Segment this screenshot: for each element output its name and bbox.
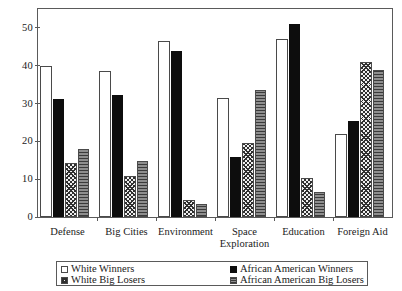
x-axis-label-line: Exploration — [215, 238, 274, 250]
x-axis-label: Environment — [156, 226, 215, 238]
chart-legend: White WinnersWhite Big Losers African Am… — [56, 261, 368, 286]
y-axis-tick: 10 — [0, 173, 42, 185]
bar — [158, 41, 170, 217]
bar — [289, 24, 301, 217]
bar — [335, 134, 347, 217]
y-axis-tick-label: 50 — [22, 22, 33, 34]
x-axis-label: SpaceExploration — [215, 226, 274, 250]
y-axis-tick: 50 — [0, 22, 42, 34]
x-axis-tick-mark — [274, 217, 275, 221]
bar — [276, 39, 288, 217]
x-axis-tick-mark — [333, 217, 334, 221]
y-axis-tick-label: 0 — [28, 211, 33, 223]
legend-column-left: White WinnersWhite Big Losers — [61, 264, 145, 286]
y-axis-tick-label: 40 — [22, 60, 33, 72]
bar-group — [97, 9, 156, 217]
x-axis-label-line: Defense — [50, 226, 84, 237]
legend-swatch-icon — [61, 277, 68, 284]
bar — [137, 161, 149, 217]
legend-item: African American Winners — [230, 264, 364, 274]
legend-item-label: White Winners — [71, 264, 134, 274]
bar — [171, 51, 183, 217]
legend-swatch-icon — [61, 266, 68, 273]
x-axis-tick-mark — [156, 217, 157, 221]
legend-item: White Big Losers — [61, 275, 145, 285]
x-axis-label-line: Space — [232, 226, 257, 237]
bar-chart: 01020304050 DefenseBig CitiesEnvironment… — [0, 0, 402, 291]
bar — [217, 98, 229, 217]
bar — [78, 149, 90, 217]
legend-item-label: African American Winners — [240, 264, 353, 274]
bar — [53, 99, 65, 217]
x-axis-label-line: Environment — [158, 226, 213, 237]
x-axis-tick-mark — [215, 217, 216, 221]
bar — [99, 71, 111, 217]
y-axis-tick: 20 — [0, 135, 42, 147]
bar-group — [274, 9, 333, 217]
bar — [348, 121, 360, 217]
bar — [230, 157, 242, 218]
x-axis-label-line: Foreign Aid — [337, 226, 387, 237]
bar — [255, 90, 267, 217]
legend-swatch-icon — [230, 277, 237, 284]
y-axis-tick: 40 — [0, 60, 42, 72]
bar — [314, 192, 326, 217]
legend-item-label: African American Big Losers — [240, 275, 364, 285]
bar — [124, 176, 136, 217]
bar — [65, 163, 77, 217]
x-axis-label: Big Cities — [97, 226, 156, 238]
legend-swatch-icon — [230, 266, 237, 273]
x-axis-label-line: Big Cities — [105, 226, 147, 237]
bar — [242, 143, 254, 217]
bar-group — [38, 9, 97, 217]
bar-group — [215, 9, 274, 217]
bar — [360, 62, 372, 217]
bar — [112, 95, 124, 217]
x-axis-label: Foreign Aid — [333, 226, 392, 238]
y-axis-tick-label: 30 — [22, 98, 33, 110]
x-axis-tick-mark — [97, 217, 98, 221]
legend-item-label: White Big Losers — [71, 275, 145, 285]
bar — [183, 200, 195, 217]
legend-item: African American Big Losers — [230, 275, 364, 285]
y-axis-tick-label: 10 — [22, 173, 33, 185]
y-axis-tick: 0 — [0, 211, 42, 223]
x-axis-label: Defense — [38, 226, 97, 238]
y-axis-tick-label: 20 — [22, 135, 33, 147]
bar — [373, 70, 385, 217]
y-axis-tick: 30 — [0, 98, 42, 110]
x-axis-label-line: Education — [282, 226, 325, 237]
legend-column-right: African American WinnersAfrican American… — [230, 264, 364, 286]
bar — [40, 66, 52, 217]
bar-group — [333, 9, 392, 217]
bar-group — [156, 9, 215, 217]
legend-item: White Winners — [61, 264, 145, 274]
bar — [196, 204, 208, 217]
bars-area — [38, 9, 392, 217]
bar — [301, 178, 313, 217]
x-axis-label: Education — [274, 226, 333, 238]
